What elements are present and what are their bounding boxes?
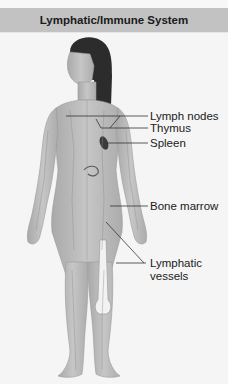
- label-thymus: Thymus: [150, 122, 191, 135]
- label-spleen: Spleen: [150, 137, 186, 150]
- label-lymphatic-vessels-line1: Lymphatic: [150, 257, 202, 270]
- label-bone-marrow: Bone marrow: [150, 200, 218, 213]
- label-lymphatic-vessels-line2: vessels: [150, 270, 188, 283]
